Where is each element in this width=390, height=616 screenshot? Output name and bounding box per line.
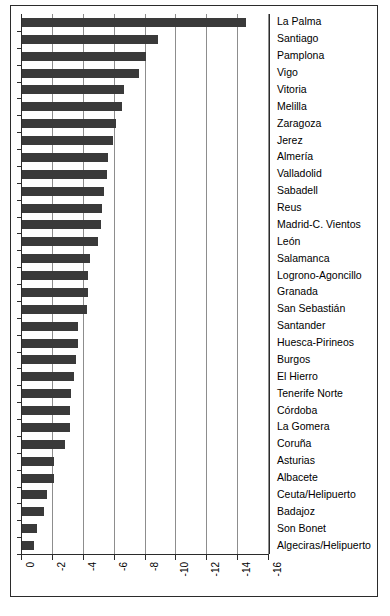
category-label: Santiago	[277, 33, 318, 44]
category-label: Huesca-Pirineos	[277, 337, 354, 348]
x-axis-tick	[83, 555, 84, 560]
category-label: Santander	[277, 320, 325, 331]
bar	[22, 355, 76, 364]
category-label: Zaragoza	[277, 118, 321, 129]
category-label: Sabadell	[277, 185, 318, 196]
x-axis-tick-label: -14	[241, 562, 252, 576]
category-label: Vitoria	[277, 84, 307, 95]
x-axis-tick-label: -8	[149, 562, 160, 571]
category-label: Badajoz	[277, 506, 315, 517]
bar	[22, 254, 90, 263]
bar	[22, 524, 37, 533]
bar	[22, 187, 104, 196]
gridline	[83, 14, 84, 554]
x-axis-tick-label: -2	[56, 562, 67, 571]
bars-and-grid	[21, 14, 268, 554]
plot-area	[21, 14, 268, 554]
category-label: Salamanca	[277, 253, 330, 264]
category-label: San Sebastián	[277, 303, 345, 314]
category-label: Jerez	[277, 135, 303, 146]
gridline	[237, 14, 238, 554]
category-label: Albacete	[277, 472, 318, 483]
category-label: La Gomera	[277, 421, 330, 432]
category-label: Granada	[277, 286, 318, 297]
bar	[22, 474, 54, 483]
bar	[22, 237, 98, 246]
x-axis-tick	[268, 555, 269, 560]
category-label: Melilla	[277, 101, 307, 112]
bar	[22, 170, 107, 179]
x-axis-tick	[175, 555, 176, 560]
category-label: Vigo	[277, 67, 298, 78]
bar	[22, 204, 102, 213]
category-label: Ceuta/Helipuerto	[277, 489, 356, 500]
category-label: Burgos	[277, 354, 310, 365]
bar	[22, 372, 74, 381]
bar	[22, 322, 78, 331]
gridline	[145, 14, 146, 554]
category-label: Pamplona	[277, 50, 324, 61]
category-label: El Hierro	[277, 371, 318, 382]
category-label: Reus	[277, 202, 302, 213]
x-axis-tick	[145, 555, 146, 560]
x-axis-tick	[52, 555, 53, 560]
category-label: León	[277, 236, 300, 247]
bar	[22, 490, 47, 499]
chart-root: 0-2-4-6-8-10-12-14-16 La PalmaSantiagoPa…	[0, 0, 390, 616]
bar	[22, 339, 78, 348]
x-axis-tick	[114, 555, 115, 560]
bar	[22, 18, 246, 27]
x-axis-tick-label: -16	[272, 562, 283, 576]
bar	[22, 85, 124, 94]
category-label: Son Bonet	[277, 523, 326, 534]
category-label: Almería	[277, 151, 313, 162]
x-axis-tick-label: 0	[25, 562, 36, 568]
bar	[22, 69, 139, 78]
bar	[22, 389, 71, 398]
x-axis-tick-label: -4	[87, 562, 98, 571]
bar	[22, 457, 54, 466]
category-label: Valladolid	[277, 168, 322, 179]
x-axis-tick-label: -12	[210, 562, 221, 576]
bar	[22, 507, 44, 516]
category-label: Logrono-Agoncillo	[277, 270, 362, 281]
bar	[22, 271, 88, 280]
bar	[22, 153, 108, 162]
category-label-column: La PalmaSantiagoPamplonaVigoVitoriaMelil…	[269, 14, 377, 554]
bar	[22, 406, 70, 415]
category-label: Algeciras/Helipuerto	[277, 540, 371, 551]
gridline	[114, 14, 115, 554]
bar	[22, 52, 146, 61]
category-label: Madrid-C. Vientos	[277, 219, 361, 230]
bar	[22, 305, 87, 314]
x-axis-tick-label: -10	[179, 562, 190, 576]
category-label: Córdoba	[277, 405, 317, 416]
bar	[22, 35, 158, 44]
bar	[22, 288, 88, 297]
bar	[22, 119, 116, 128]
x-axis-tick-label: -6	[118, 562, 129, 571]
category-label: Asturias	[277, 455, 315, 466]
gridline	[206, 14, 207, 554]
bar	[22, 220, 101, 229]
category-label: Tenerife Norte	[277, 388, 343, 399]
bar	[22, 136, 113, 145]
x-axis-tick	[206, 555, 207, 560]
x-axis-tick	[237, 555, 238, 560]
category-label: Coruña	[277, 438, 311, 449]
y-axis-line	[21, 14, 22, 554]
gridline	[175, 14, 176, 554]
bar	[22, 102, 122, 111]
bar	[22, 440, 65, 449]
bar	[22, 423, 70, 432]
bar	[22, 541, 34, 550]
category-label: La Palma	[277, 16, 321, 27]
x-axis-tick	[21, 555, 22, 560]
